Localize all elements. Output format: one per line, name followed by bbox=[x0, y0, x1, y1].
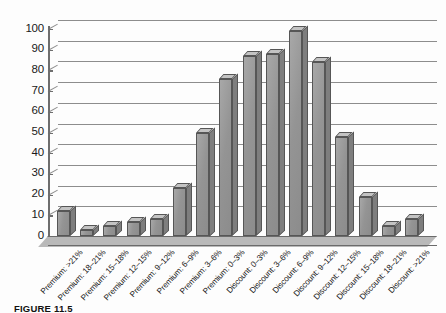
y-axis-tick-label: 50 bbox=[4, 126, 44, 138]
bar bbox=[243, 56, 256, 236]
bar-front-face bbox=[382, 226, 395, 236]
y-axis-tick-label: 40 bbox=[4, 147, 44, 159]
x-axis-labels: Premium: >21%Premium: 18–21%Premium: 15–… bbox=[48, 246, 437, 313]
chart-plot-area: 0102030405060708090100 Premium: >21%Prem… bbox=[0, 0, 446, 313]
bar-front-face bbox=[150, 219, 163, 236]
bar-front-face bbox=[127, 222, 140, 236]
bar-front-face bbox=[57, 211, 70, 236]
bar bbox=[266, 54, 279, 236]
bar bbox=[289, 31, 302, 236]
bar-front-face bbox=[80, 230, 93, 236]
bar-front-face bbox=[196, 133, 209, 237]
y-axis-tick-label: 80 bbox=[4, 64, 44, 76]
bar-front-face bbox=[266, 54, 279, 236]
y-axis-tick-label: 70 bbox=[4, 85, 44, 97]
figure-container: 0102030405060708090100 Premium: >21%Prem… bbox=[0, 0, 446, 313]
y-axis-tick-label: 30 bbox=[4, 167, 44, 179]
bar bbox=[219, 79, 232, 236]
bar-front-face bbox=[219, 79, 232, 236]
bar-side-face bbox=[209, 127, 215, 236]
bar bbox=[335, 137, 348, 236]
bar-front-face bbox=[103, 226, 116, 236]
bar bbox=[57, 211, 70, 236]
y-axis-tick-label: 20 bbox=[4, 188, 44, 200]
bar bbox=[150, 219, 163, 236]
bar bbox=[196, 133, 209, 237]
y-axis-tick-label: 10 bbox=[4, 209, 44, 221]
bar-side-face bbox=[256, 51, 262, 236]
bar bbox=[80, 230, 93, 236]
figure-caption: FIGURE 11.5 bbox=[14, 303, 73, 313]
bar-side-face bbox=[348, 131, 354, 236]
bar-front-face bbox=[289, 31, 302, 236]
bar-front-face bbox=[335, 137, 348, 236]
bar-side-face bbox=[302, 26, 308, 236]
bar bbox=[127, 222, 140, 236]
bar bbox=[382, 226, 395, 236]
y-axis-tick-label: 60 bbox=[4, 105, 44, 117]
bar bbox=[103, 226, 116, 236]
y-axis-tick-label: 90 bbox=[4, 43, 44, 55]
bar bbox=[312, 62, 325, 236]
bar bbox=[405, 219, 418, 236]
bar-side-face bbox=[186, 183, 192, 236]
bar-front-face bbox=[243, 56, 256, 236]
bar-side-face bbox=[232, 73, 238, 236]
bar bbox=[173, 188, 186, 236]
bar-front-face bbox=[173, 188, 186, 236]
bar-front-face bbox=[405, 219, 418, 236]
y-axis-tick-label: 100 bbox=[4, 23, 44, 35]
bar-front-face bbox=[312, 62, 325, 236]
bar-side-face bbox=[279, 48, 285, 236]
bar bbox=[359, 197, 372, 236]
bar-side-face bbox=[325, 57, 331, 236]
bar-side-face bbox=[372, 191, 378, 236]
bar-side-face bbox=[70, 206, 76, 236]
y-axis-tick-label: 0 bbox=[4, 230, 44, 242]
bar-front-face bbox=[359, 197, 372, 236]
